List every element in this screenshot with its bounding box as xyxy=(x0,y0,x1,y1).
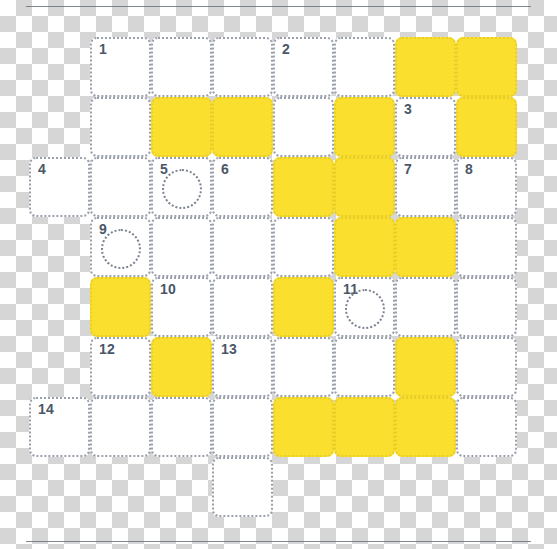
crossword-cell[interactable]: 9 xyxy=(90,217,151,277)
crossword-cell[interactable] xyxy=(90,157,151,217)
crossword-cell[interactable] xyxy=(90,277,151,337)
cell-circle-marker xyxy=(101,229,141,269)
crossword-sheet: 1234567891011121314 xyxy=(0,0,557,549)
cell-clue-number: 14 xyxy=(38,402,54,417)
crossword-cell[interactable]: 3 xyxy=(395,97,456,157)
crossword-cell[interactable] xyxy=(456,37,517,97)
crossword-cell[interactable] xyxy=(334,397,395,457)
crossword-cell[interactable] xyxy=(395,277,456,337)
crossword-cell[interactable] xyxy=(273,277,334,337)
crossword-cell[interactable] xyxy=(334,157,395,217)
crossword-cell[interactable] xyxy=(456,217,517,277)
cell-clue-number: 4 xyxy=(38,162,46,177)
crossword-cell[interactable] xyxy=(273,397,334,457)
crossword-cell[interactable] xyxy=(212,37,273,97)
crossword-cell[interactable] xyxy=(151,337,212,397)
crossword-cell[interactable] xyxy=(334,217,395,277)
crossword-cell[interactable] xyxy=(395,337,456,397)
crossword-cell[interactable] xyxy=(273,157,334,217)
crossword-cell[interactable]: 11 xyxy=(334,277,395,337)
crossword-cell[interactable] xyxy=(456,397,517,457)
crossword-cell[interactable] xyxy=(395,397,456,457)
crossword-cell[interactable] xyxy=(151,217,212,277)
cell-clue-number: 1 xyxy=(99,42,107,57)
cell-circle-marker xyxy=(345,289,385,329)
crossword-cell[interactable] xyxy=(395,37,456,97)
crossword-cell[interactable] xyxy=(273,337,334,397)
crossword-cell[interactable]: 2 xyxy=(273,37,334,97)
crossword-cell[interactable] xyxy=(456,97,517,157)
crossword-cell[interactable] xyxy=(334,337,395,397)
bottom-divider xyxy=(26,541,531,542)
crossword-cell[interactable] xyxy=(151,97,212,157)
crossword-cell[interactable] xyxy=(151,397,212,457)
cell-clue-number: 7 xyxy=(404,162,412,177)
crossword-grid[interactable]: 1234567891011121314 xyxy=(0,0,557,549)
crossword-cell[interactable] xyxy=(456,337,517,397)
crossword-cell[interactable] xyxy=(90,397,151,457)
crossword-cell[interactable] xyxy=(334,37,395,97)
crossword-cell[interactable] xyxy=(395,217,456,277)
cell-clue-number: 13 xyxy=(221,342,237,357)
cell-clue-number: 10 xyxy=(160,282,176,297)
crossword-cell[interactable]: 4 xyxy=(29,157,90,217)
crossword-cell[interactable] xyxy=(212,97,273,157)
crossword-cell[interactable] xyxy=(212,397,273,457)
crossword-cell[interactable]: 8 xyxy=(456,157,517,217)
crossword-cell[interactable]: 10 xyxy=(151,277,212,337)
cell-clue-number: 12 xyxy=(99,342,115,357)
crossword-cell[interactable] xyxy=(212,217,273,277)
crossword-cell[interactable]: 14 xyxy=(29,397,90,457)
cell-circle-marker xyxy=(162,169,202,209)
cell-clue-number: 2 xyxy=(282,42,290,57)
crossword-cell[interactable] xyxy=(273,217,334,277)
crossword-cell[interactable]: 5 xyxy=(151,157,212,217)
crossword-cell[interactable]: 13 xyxy=(212,337,273,397)
crossword-cell[interactable] xyxy=(90,97,151,157)
crossword-cell[interactable] xyxy=(273,97,334,157)
cell-clue-number: 3 xyxy=(404,102,412,117)
crossword-cell[interactable] xyxy=(212,457,273,517)
crossword-cell[interactable] xyxy=(456,277,517,337)
crossword-cell[interactable]: 6 xyxy=(212,157,273,217)
cell-clue-number: 6 xyxy=(221,162,229,177)
crossword-cell[interactable]: 12 xyxy=(90,337,151,397)
crossword-cell[interactable]: 7 xyxy=(395,157,456,217)
crossword-cell[interactable] xyxy=(151,37,212,97)
cell-clue-number: 8 xyxy=(465,162,473,177)
crossword-cell[interactable]: 1 xyxy=(90,37,151,97)
crossword-cell[interactable] xyxy=(212,277,273,337)
crossword-cell[interactable] xyxy=(334,97,395,157)
